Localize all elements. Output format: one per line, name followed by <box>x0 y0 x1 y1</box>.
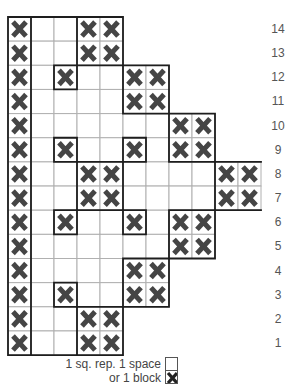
grid-cell <box>54 331 77 355</box>
grid-cell <box>31 283 54 307</box>
grid-cell <box>54 234 77 258</box>
grid-cell <box>54 114 77 138</box>
grid-cell <box>146 114 169 138</box>
grid-cell <box>54 89 77 113</box>
legend-line-block: or 1 block <box>109 371 161 385</box>
grid-cell <box>100 259 123 283</box>
grid-cell <box>77 65 100 89</box>
grid-cell <box>54 17 77 41</box>
grid-cell <box>192 162 215 186</box>
grid-cell <box>77 283 100 307</box>
grid-cell <box>100 89 123 113</box>
row-number: 3 <box>268 288 288 302</box>
grid-cell <box>54 162 77 186</box>
grid-cell <box>31 210 54 234</box>
grid-cell <box>100 138 123 162</box>
grid-cell <box>146 234 169 258</box>
grid-cell <box>31 41 54 65</box>
grid-cell <box>31 138 54 162</box>
row-number: 5 <box>268 239 288 253</box>
grid-cell <box>31 186 54 210</box>
grid-cell <box>146 186 169 210</box>
grid-cell <box>123 234 146 258</box>
row-number: 4 <box>268 264 288 278</box>
row-number: 13 <box>268 46 288 60</box>
grid-cell <box>146 162 169 186</box>
grid-cell <box>54 186 77 210</box>
x-mark-icon <box>166 371 178 384</box>
grid-cell <box>31 331 54 355</box>
grid-cell <box>169 186 192 210</box>
row-number: 8 <box>268 167 288 181</box>
legend-space-swatch <box>165 357 178 371</box>
grid-cell <box>77 259 100 283</box>
grid-cell <box>100 65 123 89</box>
grid-cell <box>169 162 192 186</box>
grid-cell <box>100 114 123 138</box>
grid-cell <box>54 41 77 65</box>
grid-cell <box>123 186 146 210</box>
row-number: 7 <box>268 191 288 205</box>
legend-block-swatch <box>165 370 178 384</box>
grid-cell <box>31 259 54 283</box>
row-number: 12 <box>268 70 288 84</box>
row-number: 11 <box>268 94 288 108</box>
row-number: 14 <box>268 22 288 36</box>
legend-line-space: 1 sq. rep. 1 space <box>66 357 161 371</box>
grid-cell <box>54 307 77 331</box>
grid-cell <box>77 114 100 138</box>
grid-cell <box>31 65 54 89</box>
grid-cell <box>31 234 54 258</box>
grid-cell <box>100 234 123 258</box>
grid-cell <box>31 162 54 186</box>
grid-cell <box>77 138 100 162</box>
row-number: 10 <box>268 119 288 133</box>
grid-cell <box>146 210 169 234</box>
grid-cell <box>123 114 146 138</box>
grid-cell <box>146 138 169 162</box>
grid-cell <box>100 283 123 307</box>
grid-cell <box>77 210 100 234</box>
row-number: 9 <box>268 143 288 157</box>
row-number: 1 <box>268 336 288 350</box>
grid-cell <box>100 210 123 234</box>
grid-cell <box>31 307 54 331</box>
grid-cell <box>31 89 54 113</box>
grid-cell <box>77 234 100 258</box>
grid-cell <box>54 259 77 283</box>
grid-cell <box>77 89 100 113</box>
grid-cell <box>31 114 54 138</box>
grid-cell <box>192 186 215 210</box>
grid-cell <box>123 162 146 186</box>
row-number: 2 <box>268 312 288 326</box>
grid-cell <box>31 17 54 41</box>
row-number: 6 <box>268 215 288 229</box>
